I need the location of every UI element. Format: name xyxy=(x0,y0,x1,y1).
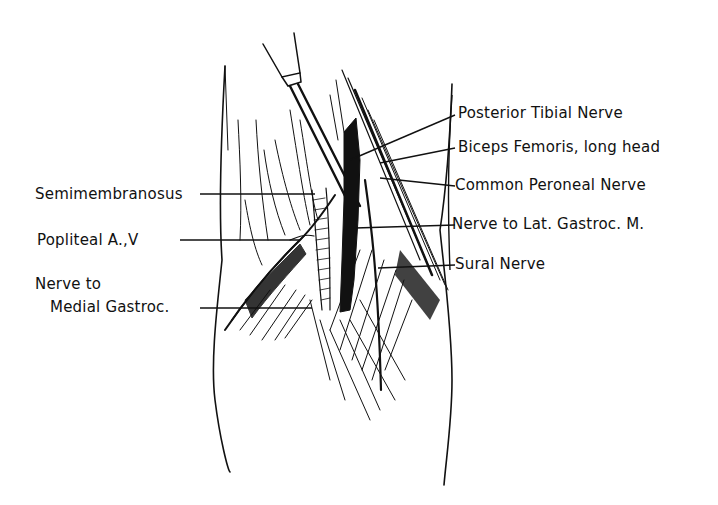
anatomical-illustration xyxy=(0,0,718,505)
label-sural-nerve: Sural Nerve xyxy=(455,255,545,273)
label-posterior-tibial-nerve: Posterior Tibial Nerve xyxy=(458,104,623,122)
label-semimembranosus: Semimembranosus xyxy=(35,185,183,203)
label-popliteal-av: Popliteal A.,V xyxy=(37,231,138,249)
label-biceps-femoris-long-head: Biceps Femoris, long head xyxy=(458,138,660,156)
label-nerve-to-lat-gastroc: Nerve to Lat. Gastroc. M. xyxy=(452,215,644,233)
label-nerve-to-medial-gastroc-line2: Medial Gastroc. xyxy=(50,298,170,316)
label-common-peroneal-nerve: Common Peroneal Nerve xyxy=(455,176,646,194)
posterior-tibial-nerve-shape xyxy=(340,118,360,312)
label-nerve-to-medial-gastroc-line1: Nerve to xyxy=(35,275,101,293)
